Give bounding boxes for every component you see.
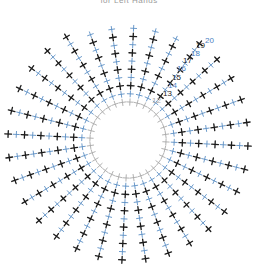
stitch-icon: [78, 201, 83, 206]
stitch-icon: [20, 175, 26, 181]
stitch-icon: [140, 239, 147, 246]
stitch-icon: [122, 191, 129, 198]
stitch-icon: [73, 79, 77, 83]
stitch-icon: [64, 122, 70, 128]
stitch-icon: [138, 84, 145, 91]
stitch-icon: [46, 133, 52, 139]
stitch-icon: [117, 83, 124, 90]
stitch-icon: [212, 141, 219, 148]
stitch-icon: [67, 191, 71, 195]
stitch-icon: [141, 248, 147, 254]
stitch-icon: [16, 86, 22, 92]
stitch-icon: [165, 250, 171, 256]
stitch-icon: [33, 114, 39, 120]
stitch-icon: [119, 240, 126, 247]
stitch-icon: [149, 177, 154, 182]
stitch-icon: [220, 142, 226, 148]
row-number-label: 12: [152, 96, 161, 105]
stitch-icon: [73, 185, 78, 190]
stitch-icon: [197, 74, 201, 78]
stitch-icon: [130, 42, 136, 48]
stitch-icon: [221, 80, 226, 85]
stitch-icon: [72, 48, 78, 54]
stitch-icon: [36, 190, 42, 196]
crochet-chart: 121314151617181920: [0, 0, 258, 268]
stitch-icon: [43, 213, 47, 217]
stitch-icon: [13, 131, 19, 137]
stitch-icon: [97, 90, 103, 96]
stitch-icon: [219, 123, 225, 129]
stitch-icon: [55, 85, 60, 90]
stitch-icon: [127, 82, 134, 89]
stitch-icon: [62, 67, 66, 71]
stitch-icon: [36, 71, 41, 76]
stitch-icon: [122, 200, 128, 206]
stitch-icon: [195, 126, 202, 133]
stitch-icon: [95, 55, 101, 61]
stitch-icon: [86, 161, 91, 166]
stitch-icon: [176, 175, 181, 180]
stitch-icon: [165, 114, 170, 119]
stitch-icon: [148, 88, 154, 94]
stitch-icon: [98, 246, 104, 252]
stitch-icon: [195, 214, 200, 219]
stitch-icon: [89, 110, 94, 115]
stitch-icon: [93, 157, 98, 162]
stitch-icon: [76, 114, 82, 120]
stitch-icon: [243, 119, 250, 126]
stitch-icon: [35, 169, 41, 175]
stitch-icon: [150, 36, 157, 43]
stitch-icon: [70, 134, 77, 141]
stitch-icon: [189, 185, 194, 190]
stitch-icon: [93, 47, 99, 53]
stitch-icon: [211, 178, 216, 183]
stitch-icon: [45, 48, 50, 53]
stitch-icon: [152, 81, 157, 86]
stitch-icon: [171, 130, 177, 136]
stitch-icon: [56, 119, 63, 126]
stitch-icon: [238, 96, 244, 102]
stitch-icon: [141, 103, 147, 109]
stitch-icon: [48, 118, 54, 124]
stitch-icon: [84, 223, 89, 228]
stitch-icon: [219, 181, 225, 187]
stitch-icon: [218, 160, 224, 166]
stitch-icon: [133, 190, 140, 197]
stitch-icon: [110, 198, 116, 204]
stitch-icon: [88, 128, 94, 134]
stitch-icon: [144, 60, 150, 66]
stitch-icon: [119, 256, 126, 263]
stitch-icon: [163, 139, 169, 145]
stitch-icon: [42, 75, 47, 80]
stitch-icon: [103, 221, 110, 228]
stitch-icon: [230, 100, 236, 106]
stitch-icon: [143, 188, 149, 194]
stitch-icon: [200, 92, 206, 98]
stitch-icon: [109, 171, 115, 177]
stitch-icon: [64, 173, 70, 179]
stitch-icon: [178, 90, 183, 95]
stitch-icon: [29, 66, 34, 71]
stitch-icon: [202, 156, 208, 162]
stitch-icon: [31, 93, 37, 99]
stitch-icon: [114, 67, 121, 74]
stitch-icon: [237, 143, 243, 149]
stitch-icon: [85, 174, 90, 179]
stitch-icon: [225, 162, 232, 169]
stitch-icon: [71, 145, 78, 152]
stitch-icon: [162, 146, 168, 152]
stitch-icon: [40, 115, 47, 122]
stitch-icon: [89, 97, 94, 102]
stitch-icon: [111, 189, 118, 196]
stitch-icon: [154, 112, 159, 117]
stitch-icon: [97, 163, 102, 168]
stitch-icon: [59, 227, 64, 232]
stitch-icon: [121, 207, 128, 214]
stitch-icon: [207, 88, 212, 93]
stitch-icon: [79, 135, 85, 141]
stitch-icon: [204, 174, 210, 180]
stitch-icon: [127, 99, 133, 105]
stitch-icon: [160, 107, 164, 111]
stitch-icon: [179, 196, 183, 200]
stitch-icon: [38, 149, 45, 156]
